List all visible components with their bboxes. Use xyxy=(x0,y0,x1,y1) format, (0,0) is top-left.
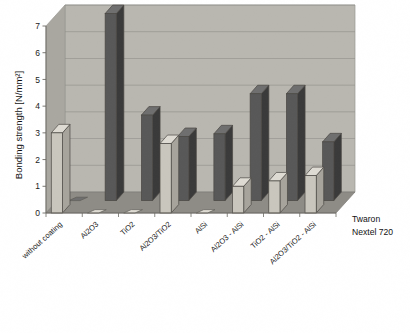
paper-grain-overlay xyxy=(0,0,410,333)
chart-canvas: 76543210 without coatingAl2O3TiO2Al2O3/T… xyxy=(0,0,410,333)
bar-chart-3d: 76543210 without coatingAl2O3TiO2Al2O3/T… xyxy=(0,0,410,333)
